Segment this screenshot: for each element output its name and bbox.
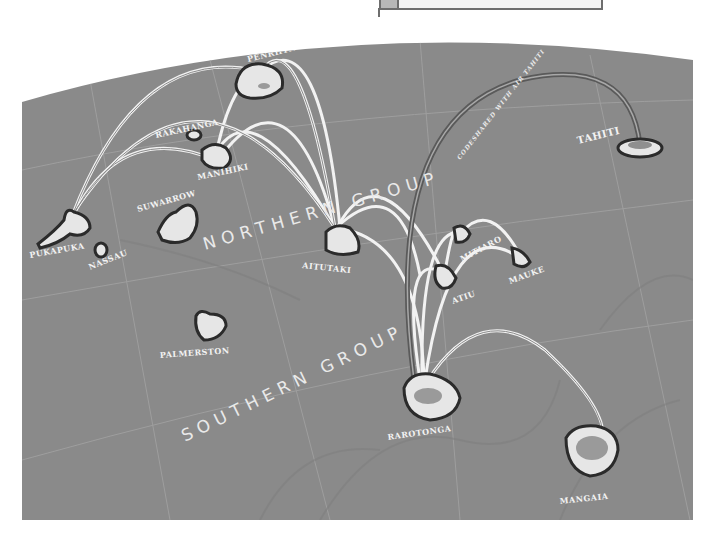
island-manihiki bbox=[202, 144, 231, 168]
route-map: NORTHERN GROUP SOUTHERN GROUP TONGAREVA/… bbox=[0, 0, 711, 541]
island-mitiaro bbox=[454, 226, 470, 242]
island-tongareva bbox=[236, 64, 283, 98]
